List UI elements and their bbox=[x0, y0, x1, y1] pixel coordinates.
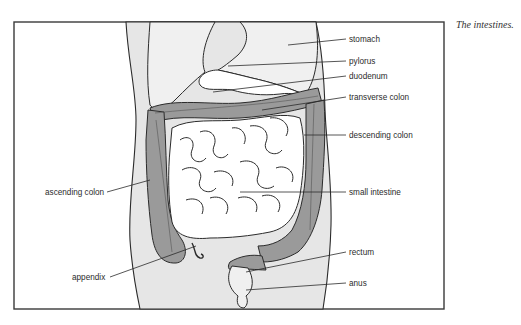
figure-caption: The intestines. bbox=[456, 19, 514, 30]
label-ascending-colon: ascending colon bbox=[45, 188, 105, 197]
label-rectum: rectum bbox=[349, 248, 374, 257]
label-duodenum: duodenum bbox=[349, 72, 388, 81]
small-intestine bbox=[169, 115, 304, 238]
label-stomach: stomach bbox=[349, 35, 380, 44]
label-anus: anus bbox=[349, 279, 367, 288]
label-pylorus: pylorus bbox=[349, 57, 375, 66]
label-transverse-colon: transverse colon bbox=[349, 93, 410, 102]
label-descending-colon: descending colon bbox=[349, 131, 413, 140]
intestines-diagram: stomach pylorus duodenum transverse colo… bbox=[0, 0, 521, 325]
label-appendix: appendix bbox=[72, 273, 105, 282]
label-small-intestine: small intestine bbox=[349, 188, 401, 197]
